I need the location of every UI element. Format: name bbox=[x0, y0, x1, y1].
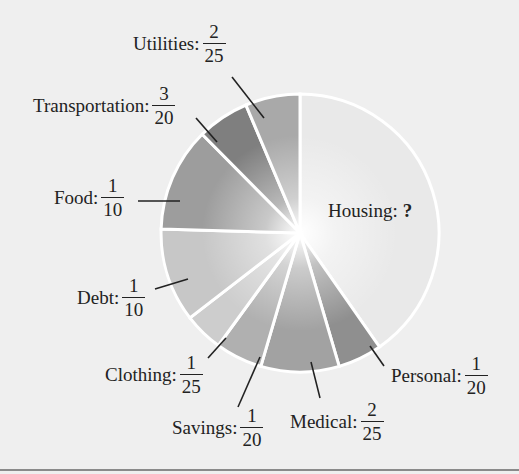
leader-savings bbox=[238, 357, 260, 407]
label-name: Savings: bbox=[172, 417, 237, 439]
label-name: Clothing: bbox=[105, 364, 177, 386]
label-clothing: Clothing: 125 bbox=[105, 353, 203, 396]
denominator: 20 bbox=[465, 375, 488, 397]
denominator: 20 bbox=[152, 105, 175, 127]
fraction: 120 bbox=[465, 354, 488, 397]
label-name: Debt: bbox=[77, 287, 119, 309]
label-housing: Housing:? bbox=[328, 200, 412, 222]
fraction: 225 bbox=[203, 22, 226, 65]
label-medical: Medical: 225 bbox=[290, 400, 384, 443]
label-name: Medical: bbox=[290, 411, 358, 433]
fraction: 120 bbox=[240, 406, 263, 449]
label-name: Personal: bbox=[391, 365, 462, 387]
fraction: 320 bbox=[152, 84, 175, 127]
label-name: Housing: bbox=[328, 200, 398, 222]
fraction: 110 bbox=[122, 276, 145, 319]
label-transportation: Transportation: 320 bbox=[33, 84, 175, 127]
label-name: Transportation: bbox=[33, 95, 149, 117]
label-food: Food: 110 bbox=[54, 176, 124, 219]
unknown-value: ? bbox=[403, 200, 413, 222]
label-debt: Debt: 110 bbox=[77, 276, 145, 319]
denominator: 20 bbox=[240, 427, 263, 449]
numerator: 2 bbox=[365, 400, 379, 421]
bottom-divider bbox=[0, 469, 519, 471]
label-personal: Personal: 120 bbox=[391, 354, 488, 397]
label-utilities: Utilities: 225 bbox=[133, 22, 226, 65]
label-savings: Savings: 120 bbox=[172, 406, 263, 449]
numerator: 1 bbox=[469, 354, 483, 375]
denominator: 10 bbox=[101, 197, 124, 219]
fraction: 225 bbox=[361, 400, 384, 443]
numerator: 1 bbox=[245, 406, 259, 427]
numerator: 1 bbox=[127, 276, 141, 297]
numerator: 3 bbox=[157, 84, 171, 105]
denominator: 25 bbox=[203, 43, 226, 65]
label-name: Utilities: bbox=[133, 33, 200, 55]
numerator: 2 bbox=[207, 22, 221, 43]
pie-chart bbox=[0, 0, 519, 474]
denominator: 25 bbox=[180, 374, 203, 396]
numerator: 1 bbox=[185, 353, 199, 374]
fraction: 110 bbox=[101, 176, 124, 219]
fraction: 125 bbox=[180, 353, 203, 396]
center-glow bbox=[161, 94, 439, 372]
denominator: 25 bbox=[361, 421, 384, 443]
label-name: Food: bbox=[54, 187, 98, 209]
denominator: 10 bbox=[122, 297, 145, 319]
numerator: 1 bbox=[106, 176, 120, 197]
